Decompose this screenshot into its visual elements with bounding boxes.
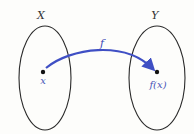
domain-element-point <box>41 70 45 74</box>
domain-set: X x <box>19 9 71 130</box>
codomain-set-label: Y <box>151 9 160 22</box>
mapping-label: f <box>99 37 106 50</box>
function-mapping-diagram: X x Y f(x) f <box>0 0 194 134</box>
domain-set-label: X <box>36 9 46 22</box>
codomain-element-label: f(x) <box>148 79 166 90</box>
mapping-arrow-curve <box>46 50 153 69</box>
codomain-element-point <box>155 70 159 74</box>
codomain-set: Y f(x) <box>129 9 185 130</box>
codomain-ellipse <box>129 26 185 130</box>
domain-element-label: x <box>40 75 46 86</box>
